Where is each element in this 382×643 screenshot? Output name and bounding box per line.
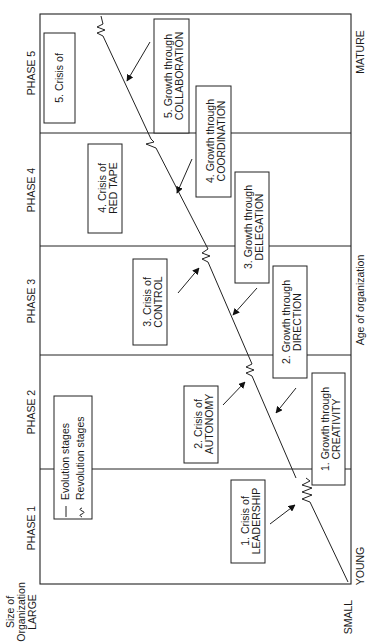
growth-arrow-2 xyxy=(276,388,296,413)
legend-evolution-label: Evolution stages xyxy=(59,423,71,500)
growth-5-name: COLLABORATION xyxy=(173,32,185,121)
crisis-2-name: AUTONOMY xyxy=(203,394,215,454)
revolution-segment-3 xyxy=(202,249,210,262)
crisis-box-3: 3. Crisis of CONTROL xyxy=(133,259,167,345)
revolution-segment-2 xyxy=(246,364,254,376)
growth-arrow-4 xyxy=(177,159,192,193)
crisis-3-name: CONTROL xyxy=(152,276,164,327)
phase-label-4: PHASE 4 xyxy=(25,168,37,213)
phase-label-2: PHASE 2 xyxy=(25,390,37,435)
growth-box-4: 4. Growth through COORDINATION xyxy=(196,86,231,197)
evolution-segment-5 xyxy=(103,36,151,139)
x-axis-low-label: YOUNG xyxy=(354,547,366,586)
evolution-segment-1 xyxy=(310,502,348,582)
x-axis-high-label: MATURE xyxy=(354,30,366,74)
growth-arrow-3 xyxy=(233,288,257,315)
legend-revolution-label: Revolution stages xyxy=(74,417,86,500)
growth-arrow-5 xyxy=(127,42,150,81)
crisis-box-2: 2. Crisis of AUTONOMY xyxy=(184,386,218,463)
growth-4-name: COORDINATION xyxy=(215,101,227,182)
y-axis-high-label: LARGE xyxy=(26,594,38,630)
phase-label-5: PHASE 5 xyxy=(25,51,37,96)
growth-1-name: CREATIVITY xyxy=(330,398,342,459)
crisis-box-4: 4. Crisis of RED TAPE xyxy=(88,144,122,233)
crisis-1-name: LEADERSHIP xyxy=(250,488,262,555)
growth-box-3: 3. Growth through DELEGATION xyxy=(235,172,269,283)
crisis-box-1: 1. Crisis of LEADERSHIP xyxy=(231,480,265,563)
growth-box-1: 1. Growth through CREATIVITY xyxy=(312,373,345,485)
growth-box-5: 5. Growth through COLLABORATION xyxy=(154,19,189,133)
growth-3-name: DELEGATION xyxy=(253,194,265,261)
evolution-segment-2 xyxy=(252,376,296,478)
greiner-growth-diagram: 1. Crisis of LEADERSHIP 2. Crisis of AUT… xyxy=(0,0,382,643)
revolution-segment-4 xyxy=(146,139,156,148)
x-axis-label: Age of organization xyxy=(354,255,366,346)
y-axis-low-label: SMALL xyxy=(342,600,354,635)
revolution-segment-1 xyxy=(302,478,312,502)
crisis-5-title: 5. Crisis of xyxy=(53,53,65,103)
legend: Evolution stages Revolution stages xyxy=(54,396,92,519)
growth-2-name: DIRECTION xyxy=(291,293,303,351)
phase-label-1: PHASE 1 xyxy=(25,506,37,551)
crisis-arrow-1 xyxy=(270,505,295,524)
crisis-arrow-3 xyxy=(178,268,199,293)
growth-box-2: 2. Growth through DIRECTION xyxy=(273,266,307,378)
crisis-box-5: 5. Crisis of xyxy=(44,33,75,123)
revolution-segment-5 xyxy=(97,16,105,36)
crisis-4-name: RED TAPE xyxy=(107,162,119,214)
crisis-arrow-2 xyxy=(223,382,245,405)
phase-label-3: PHASE 3 xyxy=(25,279,37,324)
